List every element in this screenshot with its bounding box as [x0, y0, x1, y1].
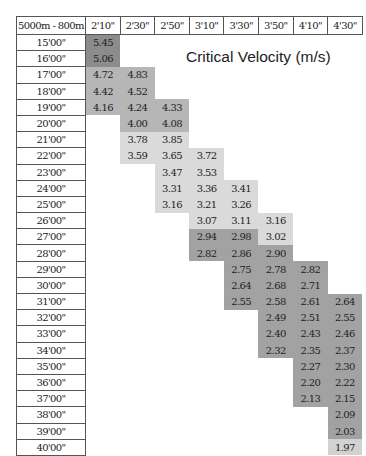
empty-cell — [293, 407, 328, 423]
empty-cell — [155, 342, 190, 358]
velocity-cell: 3.72 — [189, 148, 224, 164]
empty-cell — [189, 83, 224, 99]
velocity-cell: 3.85 — [155, 132, 190, 148]
column-header: 2'50" — [155, 17, 190, 35]
header-row: 5000m - 800m 2'10"2'30"2'50"3'10"3'30"3'… — [17, 17, 363, 35]
velocity-cell: 4.52 — [120, 83, 155, 99]
row-label: 15'00" — [17, 35, 86, 51]
velocity-cell: 2.15 — [328, 391, 363, 407]
empty-cell — [328, 277, 363, 293]
empty-cell — [328, 245, 363, 261]
velocity-cell: 3.41 — [224, 180, 259, 196]
empty-cell — [86, 261, 121, 277]
empty-cell — [328, 229, 363, 245]
empty-cell — [328, 148, 363, 164]
empty-cell — [189, 261, 224, 277]
velocity-cell: 3.02 — [258, 229, 293, 245]
velocity-cell: 2.35 — [293, 342, 328, 358]
empty-cell — [189, 294, 224, 310]
empty-cell — [120, 277, 155, 293]
empty-cell — [258, 180, 293, 196]
velocity-cell: 2.40 — [258, 326, 293, 342]
empty-cell — [224, 439, 259, 455]
table-row: 39'00"2.03 — [17, 423, 363, 439]
velocity-cell: 3.21 — [189, 196, 224, 212]
empty-cell — [120, 213, 155, 229]
empty-cell — [120, 180, 155, 196]
empty-cell — [86, 180, 121, 196]
velocity-cell: 2.49 — [258, 310, 293, 326]
empty-cell — [258, 99, 293, 115]
velocity-cell: 3.47 — [155, 164, 190, 180]
empty-cell — [293, 99, 328, 115]
empty-cell — [293, 148, 328, 164]
table-row: 29'00"2.752.782.82 — [17, 261, 363, 277]
velocity-cell: 4.00 — [120, 115, 155, 131]
table-row: 22'00"3.593.653.72 — [17, 148, 363, 164]
empty-cell — [86, 213, 121, 229]
empty-cell — [258, 423, 293, 439]
velocity-cell: 5.45 — [86, 35, 121, 51]
row-label: 26'00" — [17, 213, 86, 229]
empty-cell — [189, 374, 224, 390]
column-header: 4'30" — [328, 17, 363, 35]
table-row: 35'00"2.272.30 — [17, 358, 363, 374]
velocity-cell: 3.36 — [189, 180, 224, 196]
empty-cell — [293, 423, 328, 439]
empty-cell — [224, 115, 259, 131]
column-header: 3'10" — [189, 17, 224, 35]
table-body: 5000m - 800m 2'10"2'30"2'50"3'10"3'30"3'… — [17, 17, 363, 456]
empty-cell — [293, 229, 328, 245]
empty-cell — [155, 35, 190, 51]
empty-cell — [293, 245, 328, 261]
empty-cell — [328, 164, 363, 180]
empty-cell — [155, 374, 190, 390]
empty-cell — [293, 439, 328, 455]
empty-cell — [189, 423, 224, 439]
velocity-cell: 4.16 — [86, 99, 121, 115]
empty-cell — [258, 407, 293, 423]
table-row: 26'00"3.073.113.16 — [17, 213, 363, 229]
row-label: 16'00" — [17, 51, 86, 67]
empty-cell — [86, 423, 121, 439]
row-label: 22'00" — [17, 148, 86, 164]
empty-cell — [224, 407, 259, 423]
table-row: 25'00"3.163.213.26 — [17, 196, 363, 212]
empty-cell — [155, 277, 190, 293]
empty-cell — [120, 164, 155, 180]
table-row: 23'00"3.473.53 — [17, 164, 363, 180]
empty-cell — [86, 148, 121, 164]
velocity-cell: 4.33 — [155, 99, 190, 115]
row-label: 30'00" — [17, 277, 86, 293]
velocity-cell: 2.22 — [328, 374, 363, 390]
velocity-cell: 2.82 — [189, 245, 224, 261]
critical-velocity-table: 5000m - 800m 2'10"2'30"2'50"3'10"3'30"3'… — [16, 16, 363, 456]
empty-cell — [86, 407, 121, 423]
velocity-cell: 2.20 — [293, 374, 328, 390]
empty-cell — [224, 99, 259, 115]
empty-cell — [293, 132, 328, 148]
table-row: 18'00"4.424.52 — [17, 83, 363, 99]
row-label: 25'00" — [17, 196, 86, 212]
empty-cell — [224, 342, 259, 358]
empty-cell — [155, 391, 190, 407]
empty-cell — [86, 115, 121, 131]
empty-cell — [258, 132, 293, 148]
velocity-cell: 3.26 — [224, 196, 259, 212]
empty-cell — [293, 164, 328, 180]
empty-cell — [293, 115, 328, 131]
velocity-cell: 1.97 — [328, 439, 363, 455]
empty-cell — [86, 358, 121, 374]
velocity-cell: 2.82 — [293, 261, 328, 277]
empty-cell — [258, 115, 293, 131]
empty-cell — [224, 83, 259, 99]
empty-cell — [120, 229, 155, 245]
empty-cell — [224, 310, 259, 326]
empty-cell — [258, 196, 293, 212]
empty-cell — [120, 310, 155, 326]
empty-cell — [293, 67, 328, 83]
row-label: 36'00" — [17, 374, 86, 390]
velocity-cell: 4.08 — [155, 115, 190, 131]
row-label: 31'00" — [17, 294, 86, 310]
velocity-cell: 2.64 — [224, 277, 259, 293]
